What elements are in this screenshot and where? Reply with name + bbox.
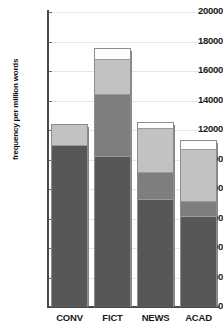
y-axis-tick-label: 18000 bbox=[179, 35, 223, 46]
bar-segment-segment-3-light bbox=[138, 129, 173, 173]
bar-chart: frequency per million words 020004000600… bbox=[0, 0, 223, 335]
bar-segment-segment-2-medium bbox=[181, 202, 216, 218]
bar-segment-segment-1-dark bbox=[52, 146, 87, 307]
bar-news[interactable] bbox=[137, 122, 174, 307]
bar-segment-segment-1-dark bbox=[181, 217, 216, 307]
bar-conv[interactable] bbox=[51, 124, 88, 307]
y-axis-tick-label: 20000 bbox=[179, 5, 223, 16]
bar-segment-segment-3-light bbox=[95, 60, 130, 96]
y-axis-tick-label: 12000 bbox=[179, 123, 223, 134]
bar-fict[interactable] bbox=[94, 48, 131, 307]
y-axis-line bbox=[47, 10, 49, 308]
bar-segment-segment-1-dark bbox=[138, 200, 173, 307]
bar-segment-segment-3-light bbox=[181, 150, 216, 202]
bar-segment-segment-2-medium bbox=[95, 95, 130, 157]
y-axis-tick-label: 14000 bbox=[179, 94, 223, 105]
bar-segment-segment-2-medium bbox=[138, 173, 173, 201]
bar-segment-segment-4-white bbox=[181, 141, 216, 150]
bar-segment-segment-1-dark bbox=[95, 157, 130, 307]
y-axis-tick-label: 16000 bbox=[179, 64, 223, 75]
y-axis-title: frequency per million words bbox=[0, 0, 14, 180]
bar-segment-segment-3-light bbox=[52, 125, 87, 146]
x-axis-label-acad: ACAD bbox=[172, 312, 224, 323]
y-axis-title-label: frequency per million words bbox=[11, 59, 20, 160]
bar-acad[interactable] bbox=[180, 140, 217, 307]
bar-segment-segment-4-white bbox=[95, 49, 130, 59]
